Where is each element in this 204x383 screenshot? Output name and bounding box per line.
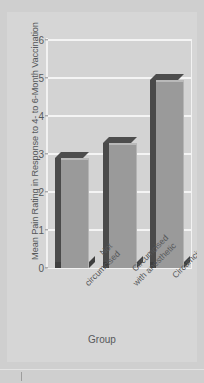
bar-top-highlight (156, 80, 184, 82)
y-axis-tick-mark (45, 229, 49, 230)
x-axis-title: Group (7, 334, 197, 345)
y-axis-tick-mark (45, 39, 49, 40)
y-axis-tick-mark (45, 77, 49, 78)
bar-front-face (61, 158, 89, 268)
y-axis-tick-label: 4 (10, 111, 44, 122)
y-axis-tick-mark (45, 153, 49, 154)
y-axis-tick-label: 6 (10, 35, 44, 46)
plot-area: 0123456 (47, 39, 192, 269)
y-axis-tick-mark (45, 267, 49, 268)
y-axis-tick-label: 3 (10, 149, 44, 160)
y-axis-tick-label: 1 (10, 225, 44, 236)
y-axis-tick-mark (45, 191, 49, 192)
gridline (48, 39, 191, 41)
y-axis-tick-label: 0 (10, 263, 44, 274)
bar-top-highlight (109, 143, 137, 145)
page-divider (0, 369, 204, 370)
bar-top-highlight (61, 158, 89, 160)
bar (55, 152, 89, 268)
y-axis-tick-mark (45, 115, 49, 116)
page-tick-mark (21, 372, 22, 381)
y-axis-tick-label: 2 (10, 187, 44, 198)
chart-figure: Mean Pain Rating in Response to 4- to 6-… (7, 12, 197, 362)
y-axis-tick-label: 5 (10, 73, 44, 84)
